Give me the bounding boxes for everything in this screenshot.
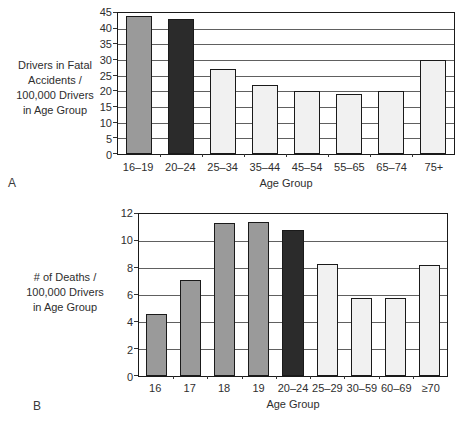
bar-16–19 <box>126 16 151 154</box>
panel-a-plot-area <box>117 12 455 155</box>
bar-series <box>139 214 447 376</box>
y-axis-tick <box>134 321 138 322</box>
x-tick-slot: 19 <box>241 382 275 394</box>
x-axis-tick <box>344 376 345 379</box>
bar-65–74 <box>378 91 403 154</box>
x-axis-tick <box>412 154 413 157</box>
y-tick-label: 2 <box>127 344 133 355</box>
bar-slot <box>244 13 286 154</box>
bar-series <box>118 13 454 154</box>
x-axis-tick <box>202 154 203 157</box>
x-tick-label: 75+ <box>425 161 444 173</box>
y-tick-label: 6 <box>127 290 133 301</box>
x-tick-label: 60–69 <box>381 382 412 394</box>
x-tick-slot: 55–65 <box>328 161 370 173</box>
x-tick-slot: 30–59 <box>345 382 379 394</box>
x-axis-tick <box>370 154 371 157</box>
y-tick-label: 15 <box>100 102 112 113</box>
x-axis-tick <box>173 376 174 379</box>
y-axis-tick <box>134 240 138 241</box>
y-axis-tick <box>113 75 117 76</box>
y-tick-label: 10 <box>100 118 112 129</box>
x-axis-tick <box>286 154 287 157</box>
bar-18 <box>214 223 235 376</box>
x-tick-label: 16–19 <box>123 161 154 173</box>
x-tick-slot: 65–74 <box>371 161 413 173</box>
y-axis-tick <box>113 12 117 13</box>
bar-slot <box>202 13 244 154</box>
x-axis-tick <box>242 376 243 379</box>
x-tick-slot: 18 <box>207 382 241 394</box>
y-axis-tick <box>134 213 138 214</box>
x-axis-tick <box>160 154 161 157</box>
bar-slot <box>370 13 412 154</box>
x-axis-tick <box>379 376 380 379</box>
y-tick-label: 0 <box>127 372 133 383</box>
y-tick-label: 0 <box>106 150 112 161</box>
x-tick-label: 17 <box>184 382 196 394</box>
y-tick-label: 12 <box>121 208 133 219</box>
x-axis-tick <box>207 376 208 379</box>
bar-75+ <box>420 60 445 154</box>
y-axis-tick <box>113 43 117 44</box>
x-tick-slot: 16–19 <box>117 161 159 173</box>
panel-b-x-axis-label: Age Group <box>138 398 448 410</box>
y-axis-tick <box>113 106 117 107</box>
bar-slot <box>310 214 344 376</box>
y-axis-tick <box>134 348 138 349</box>
y-tick-label: 5 <box>106 134 112 145</box>
panel-a-y-tick-labels: 051015202530354045 <box>78 12 112 155</box>
bar-slot <box>139 214 173 376</box>
bar-60–69 <box>385 298 406 376</box>
x-tick-label: 55–65 <box>334 161 365 173</box>
bar-25–34 <box>210 69 235 154</box>
x-tick-slot: 25–29 <box>310 382 344 394</box>
panel-b-letter: B <box>33 399 41 413</box>
y-axis-tick <box>134 294 138 295</box>
y-axis-tick <box>113 137 117 138</box>
y-axis-tick <box>113 59 117 60</box>
x-tick-slot: 20–24 <box>159 161 201 173</box>
y-tick-label: 25 <box>100 70 112 81</box>
x-tick-label: 20–24 <box>278 382 309 394</box>
x-tick-slot: 20–24 <box>276 382 310 394</box>
bar-30–59 <box>351 298 372 376</box>
bar-45–54 <box>294 91 319 154</box>
x-axis-tick <box>276 376 277 379</box>
x-tick-slot: 75+ <box>413 161 455 173</box>
y-tick-label: 30 <box>100 54 112 65</box>
y-tick-label: 20 <box>100 86 112 97</box>
x-tick-label: 45–54 <box>292 161 323 173</box>
x-tick-label: 20–24 <box>165 161 196 173</box>
x-tick-label: 65–74 <box>376 161 407 173</box>
bar-20–24 <box>282 230 303 376</box>
x-axis-tick <box>244 154 245 157</box>
bar-≥70 <box>419 265 440 376</box>
bar-25–29 <box>317 264 338 376</box>
x-tick-label: 16 <box>149 382 161 394</box>
x-tick-slot: 25–34 <box>202 161 244 173</box>
bar-19 <box>248 222 269 376</box>
y-tick-label: 4 <box>127 317 133 328</box>
panel-a-x-tick-labels: 16–1920–2425–3435–4445–5455–6565–7475+ <box>117 161 455 173</box>
y-axis-tick <box>113 28 117 29</box>
y-axis-tick <box>113 122 117 123</box>
bar-slot <box>344 214 378 376</box>
x-tick-slot: 45–54 <box>286 161 328 173</box>
bar-55–65 <box>336 94 361 154</box>
bar-slot <box>328 13 370 154</box>
x-tick-label: 25–34 <box>207 161 238 173</box>
panel-b-x-tick-labels: 1617181920–2425–2930–5960–69≥70 <box>138 382 448 394</box>
bar-slot <box>160 13 202 154</box>
y-tick-label: 40 <box>100 22 112 33</box>
x-axis-tick <box>413 376 414 379</box>
panel-a-x-axis-label: Age Group <box>117 177 455 189</box>
y-tick-label: 10 <box>121 235 133 246</box>
bar-slot <box>118 13 160 154</box>
bar-slot <box>379 214 413 376</box>
panel-b-plot-area <box>138 213 448 377</box>
panel-b-y-tick-labels: 024681012 <box>98 213 133 377</box>
y-axis-tick <box>134 375 138 376</box>
x-tick-label: 35–44 <box>250 161 281 173</box>
bar-slot <box>413 214 447 376</box>
